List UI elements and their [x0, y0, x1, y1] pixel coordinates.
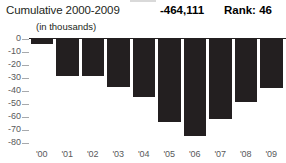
y-tick: [22, 52, 29, 53]
x-tick-label: '01: [54, 150, 80, 159]
bar-y01[interactable]: [56, 39, 79, 77]
x-tick-label: '04: [131, 150, 157, 159]
y-tick: [22, 143, 29, 144]
y-tick: [22, 91, 29, 92]
y-tick: [22, 65, 29, 66]
y-tick: [22, 39, 29, 40]
bar-y00[interactable]: [31, 39, 54, 44]
y-tick-label: -30: [0, 73, 21, 82]
x-tick-label: '03: [105, 150, 131, 159]
x-tick-label: '09: [258, 150, 284, 159]
bar-y09[interactable]: [260, 39, 283, 88]
bar-y02[interactable]: [82, 39, 105, 77]
rank-badge: Rank: 46: [224, 4, 272, 16]
y-tick-label: -70: [0, 125, 21, 134]
y-tick: [22, 117, 29, 118]
y-tick-label: -50: [0, 99, 21, 108]
bar-y03[interactable]: [107, 39, 130, 87]
y-tick: [22, 78, 29, 79]
units-note: (in thousands): [36, 21, 96, 32]
page-title: Cumulative 2000-2009: [6, 4, 120, 16]
x-tick-label: '02: [80, 150, 106, 159]
y-tick-label: 0: [0, 34, 21, 43]
chart-panel: Cumulative 2000-2009 -464,111 Rank: 46 (…: [0, 0, 286, 163]
y-tick-label: -60: [0, 112, 21, 121]
bar-y05[interactable]: [158, 39, 181, 122]
bar-y08[interactable]: [235, 39, 258, 103]
bar-y04[interactable]: [133, 39, 156, 98]
y-tick-label: -20: [0, 60, 21, 69]
x-tick-label: '06: [182, 150, 208, 159]
x-tick-label: '08: [233, 150, 259, 159]
y-tick-label: -40: [0, 86, 21, 95]
y-tick-label: -80: [0, 138, 21, 147]
y-tick-label: -10: [0, 47, 21, 56]
bar-y07[interactable]: [209, 39, 232, 120]
cumulative-total-value: -464,111: [160, 4, 204, 16]
x-tick-label: '05: [156, 150, 182, 159]
chart-header: Cumulative 2000-2009 -464,111 Rank: 46: [0, 2, 286, 22]
x-tick-label: '00: [29, 150, 55, 159]
x-tick-label: '07: [207, 150, 233, 159]
bar-y06[interactable]: [184, 39, 207, 137]
zero-axis-line: [29, 38, 286, 39]
y-tick: [22, 130, 29, 131]
y-tick: [22, 104, 29, 105]
